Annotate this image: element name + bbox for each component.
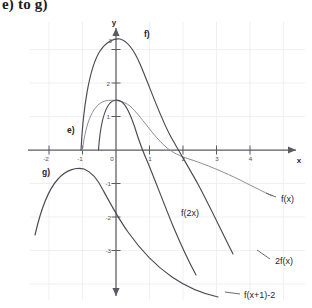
x-tick-label-0: 0 [110,155,114,162]
curve-label-f-of-x-plus-1-minus-2: f(x+1)-2 [244,290,275,300]
leader-line-f-of-x [266,193,276,197]
y-tick-label-1: 1 [107,113,111,120]
y-tick-label-neg3: -3 [105,247,111,254]
marker-label-g: g) [42,167,50,177]
marker-label-f: f) [144,29,150,39]
leader-line-2f-of-x [257,250,270,259]
curve-label-f-of-2x: f(2x) [181,208,199,218]
y-tick-label-2: 2 [107,80,111,87]
grid-lines [30,22,305,300]
x-tick-label-3: 3 [215,155,219,162]
curve-f-of-x-plus-1-minus-2 [35,168,218,297]
marker-label-e: e) [67,125,75,135]
x-tick-label-4: 4 [249,155,253,162]
x-tick-label-1: 1 [148,155,152,162]
y-tick-label-neg1: -1 [105,180,111,187]
x-axis [28,146,296,155]
graph-figure: -2 -1 0 1 2 3 4 1 2 3 -1 -2 -3 x y f(x) … [0,0,312,308]
y-axis-label: y [112,18,117,27]
y-tick-label-neg2: -2 [105,214,111,221]
x-axis-label: x [297,156,302,165]
leader-line-shifted [225,292,240,294]
curve-label-f-of-x: f(x) [281,194,294,204]
curve-label-2f-of-x: 2f(x) [275,256,293,266]
curve-2f-of-x [81,39,233,254]
x-tick-label-neg1: -1 [77,155,83,162]
x-tick-label-neg2: -2 [43,155,49,162]
y-axis [112,28,121,296]
